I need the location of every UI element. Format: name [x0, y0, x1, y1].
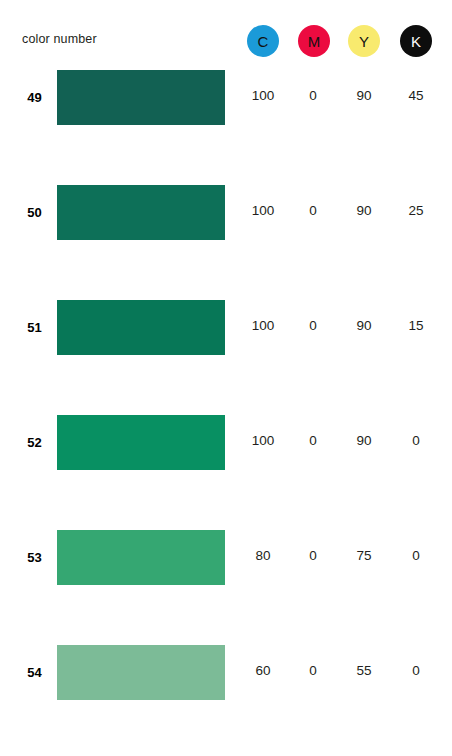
color-swatch [57, 300, 225, 355]
ink-channel-legend: C M Y K [240, 22, 452, 64]
table-row: 4910009045 [0, 70, 452, 185]
magenta-value: 0 [290, 199, 336, 223]
row-number-label: 51 [0, 320, 42, 335]
cyan-channel-letter: C [258, 33, 269, 48]
magenta-value: 0 [290, 84, 336, 108]
color-swatch [57, 185, 225, 240]
yellow-value: 75 [341, 544, 387, 568]
magenta-value: 0 [290, 659, 336, 683]
row-number-label: 54 [0, 665, 42, 680]
cyan-value: 100 [240, 429, 286, 453]
cyan-value: 60 [240, 659, 286, 683]
black-value: 45 [393, 84, 439, 108]
row-number-label: 53 [0, 550, 42, 565]
black-value: 25 [393, 199, 439, 223]
magenta-value: 0 [290, 429, 336, 453]
color-swatch [57, 530, 225, 585]
yellow-value: 90 [341, 429, 387, 453]
color-row-list: 4910009045501000902551100090155210009005… [0, 70, 452, 756]
cmyk-color-chart: color number C M Y K 4910009045501000902… [0, 0, 452, 756]
cmyk-values: 10009025 [240, 199, 452, 223]
table-row: 54600550 [0, 645, 452, 756]
cyan-value: 80 [240, 544, 286, 568]
black-channel-letter: K [411, 33, 421, 48]
cyan-value: 100 [240, 199, 286, 223]
cmyk-values: 10009015 [240, 314, 452, 338]
row-number-label: 49 [0, 90, 42, 105]
row-number-label: 50 [0, 205, 42, 220]
cmyk-values: 1000900 [240, 429, 452, 453]
cmyk-values: 600550 [240, 659, 452, 683]
yellow-channel-letter: Y [359, 33, 369, 48]
cyan-value: 100 [240, 314, 286, 338]
cyan-channel-icon: C [247, 25, 279, 57]
table-row: 53800750 [0, 530, 452, 645]
yellow-channel-icon: Y [348, 25, 380, 57]
magenta-channel-letter: M [308, 33, 321, 48]
color-swatch [57, 70, 225, 125]
black-value: 0 [393, 429, 439, 453]
magenta-value: 0 [290, 544, 336, 568]
black-value: 15 [393, 314, 439, 338]
yellow-value: 90 [341, 84, 387, 108]
color-swatch [57, 415, 225, 470]
color-swatch [57, 645, 225, 700]
magenta-value: 0 [290, 314, 336, 338]
cyan-value: 100 [240, 84, 286, 108]
yellow-value: 90 [341, 314, 387, 338]
yellow-value: 90 [341, 199, 387, 223]
table-row: 521000900 [0, 415, 452, 530]
row-number-label: 52 [0, 435, 42, 450]
color-number-header-label: color number [22, 32, 97, 46]
table-row: 5110009015 [0, 300, 452, 415]
magenta-channel-icon: M [298, 25, 330, 57]
table-row: 5010009025 [0, 185, 452, 300]
black-value: 0 [393, 544, 439, 568]
chart-header: color number C M Y K [0, 22, 452, 64]
cmyk-values: 800750 [240, 544, 452, 568]
cmyk-values: 10009045 [240, 84, 452, 108]
yellow-value: 55 [341, 659, 387, 683]
black-channel-icon: K [400, 25, 432, 57]
black-value: 0 [393, 659, 439, 683]
